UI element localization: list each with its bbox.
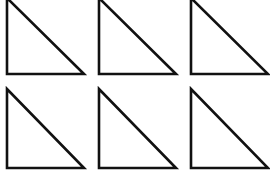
right-triangle xyxy=(7,89,84,168)
triangle-grid xyxy=(0,0,270,172)
right-triangle xyxy=(191,0,268,74)
right-triangle xyxy=(191,89,268,168)
right-triangle xyxy=(99,0,176,74)
right-triangle xyxy=(7,0,84,74)
right-triangle xyxy=(99,89,176,168)
